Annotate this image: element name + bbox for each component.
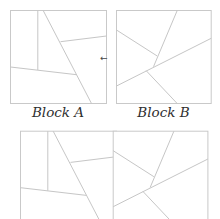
block-b-outline-combined [113,131,208,219]
left-arrow-icon: ← [100,53,108,63]
combined-part-b [113,131,208,219]
block-b [117,11,212,104]
combined-part-a [21,131,117,219]
block-a-outline-combined [21,131,117,219]
block-a-label: Block A [31,104,84,120]
diagram-canvas: ← Block A Block B [0,0,220,219]
combined-block [21,131,208,219]
block-a-outline [11,11,107,104]
block-b-label: Block B [136,104,189,120]
block-a [11,11,107,104]
